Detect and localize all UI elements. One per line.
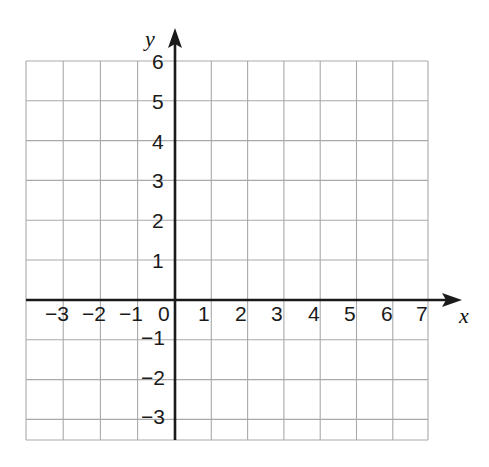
x-axis-label: x <box>459 305 469 327</box>
x-tick-label--3: −3 <box>45 303 69 324</box>
x-tick-label--2: −2 <box>82 303 106 324</box>
y-axis-label: y <box>145 28 155 50</box>
y-tick-label--3: −3 <box>141 406 165 427</box>
origin-tick-label: 0 <box>158 303 170 324</box>
x-tick-label-1: 1 <box>198 303 210 324</box>
y-tick-label-5: 5 <box>152 91 164 112</box>
y-tick-label--2: −2 <box>141 367 165 388</box>
x-tick-label-7: 7 <box>416 303 428 324</box>
x-tick-label-4: 4 <box>308 303 320 324</box>
coordinate-grid-figure: x y 0 −3 −2 −1 1 2 3 4 5 6 7 6 5 4 3 2 1… <box>0 0 489 467</box>
y-tick-label--1: −1 <box>141 327 165 348</box>
grid-vertical-lines <box>26 61 428 440</box>
y-tick-label-3: 3 <box>152 170 164 191</box>
x-tick-label-5: 5 <box>344 303 356 324</box>
y-tick-label-6: 6 <box>152 51 164 72</box>
graph-canvas <box>0 0 489 467</box>
grid-horizontal-lines <box>26 61 428 440</box>
x-tick-label--1: −1 <box>119 303 143 324</box>
x-tick-label-3: 3 <box>271 303 283 324</box>
y-tick-label-1: 1 <box>152 250 164 271</box>
x-tick-label-6: 6 <box>381 303 393 324</box>
y-tick-label-4: 4 <box>152 131 164 152</box>
y-tick-label-2: 2 <box>152 210 164 231</box>
x-tick-label-2: 2 <box>235 303 247 324</box>
